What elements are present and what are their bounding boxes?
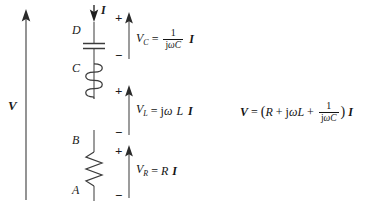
polarity-minus-inductor: −: [115, 126, 122, 139]
vt-plus-2: +: [307, 106, 314, 118]
current-label: I: [101, 4, 106, 16]
polarity-minus-resistor: −: [115, 189, 122, 202]
vt-close-paren: ): [341, 105, 346, 119]
polarity-plus-capacitor: +: [115, 11, 122, 24]
vc-equals: =: [152, 33, 159, 45]
vr-current: I: [172, 165, 177, 177]
vt-fraction: 1 jωC: [319, 101, 339, 124]
vl-equals: =: [151, 105, 158, 117]
inductor-voltage-equation: VL = j ω L I: [136, 103, 193, 118]
vt-inductance: L: [297, 106, 304, 118]
source-voltage-arrow: [22, 9, 31, 200]
polarity-plus-resistor: +: [115, 144, 122, 157]
vl-omega: ω: [164, 105, 172, 117]
polarity-plus-inductor: +: [115, 84, 122, 97]
vt-current: I: [348, 106, 353, 118]
inductor-voltage-arrow: [125, 85, 133, 135]
vt-numerator: 1: [323, 101, 334, 112]
current-arrow: [90, 5, 98, 22]
source-voltage-label: V: [8, 99, 17, 112]
polarity-minus-capacitor: −: [115, 49, 122, 62]
resistor-voltage-equation: VR = R I: [136, 163, 177, 178]
vc-fraction: 1 jωC: [163, 28, 183, 51]
node-a-label: A: [72, 184, 79, 196]
vl-current: I: [188, 105, 193, 117]
vr-resistance: R: [161, 165, 168, 177]
vt-denominator: jωC: [319, 113, 339, 124]
vr-equals: =: [151, 165, 158, 177]
vc-subscript: C: [143, 38, 148, 47]
vt-plus-1: +: [276, 106, 283, 118]
vt-den-c: C: [330, 113, 336, 123]
resistor-symbol: [86, 152, 102, 186]
vc-denominator: jωC: [163, 40, 183, 51]
vl-inductance: L: [176, 105, 183, 117]
vr-subscript: R: [143, 169, 148, 178]
capacitor-symbol: [83, 44, 105, 49]
vl-subscript: L: [143, 109, 147, 118]
vt-symbol: V: [240, 106, 248, 118]
vc-current: I: [189, 33, 194, 45]
vc-numerator: 1: [168, 28, 179, 39]
node-c-label: C: [72, 62, 80, 74]
capacitor-voltage-arrow: [125, 12, 133, 59]
node-b-label: B: [72, 134, 79, 146]
resistor-voltage-arrow: [125, 145, 133, 198]
node-d-label: D: [72, 24, 81, 36]
vt-resistance: R: [265, 106, 272, 118]
vc-den-c: C: [175, 40, 181, 50]
capacitor-voltage-equation: VC = 1 jωC I: [136, 28, 194, 51]
total-voltage-equation: V = ( R + j ω L + 1 jωC ) I: [240, 101, 353, 124]
vt-equals: =: [251, 106, 258, 118]
circuit-diagram-canvas: V I D C B A + − + − + − VC = 1 jωC I VL …: [0, 0, 373, 211]
vc-den-omega: ω: [168, 40, 175, 50]
